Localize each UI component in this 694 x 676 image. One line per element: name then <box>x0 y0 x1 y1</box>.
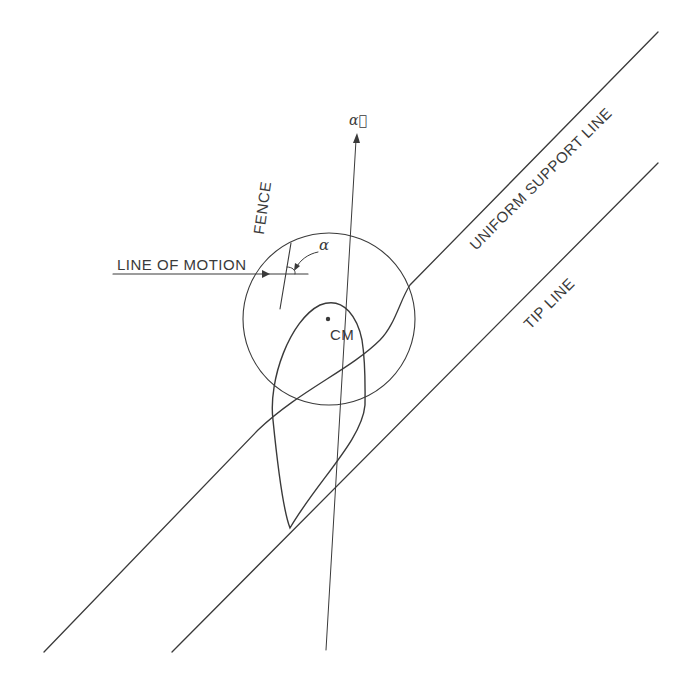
fence-line <box>280 243 291 309</box>
cm-dot <box>326 317 330 321</box>
alpha-axis-line <box>326 140 356 650</box>
alpha-axis-arrowhead <box>353 133 360 143</box>
alpha-label: α <box>319 236 330 254</box>
alpha-angle-arc <box>287 267 295 274</box>
alpha-pointer-arrowhead <box>294 263 300 271</box>
alpha-vector-label: α⃗ <box>349 112 367 128</box>
tip-line <box>172 163 658 652</box>
line-of-motion-label: LINE OF MOTION <box>117 256 247 273</box>
line-of-motion-arrowhead <box>262 270 270 278</box>
cm-label: CM <box>330 326 354 343</box>
